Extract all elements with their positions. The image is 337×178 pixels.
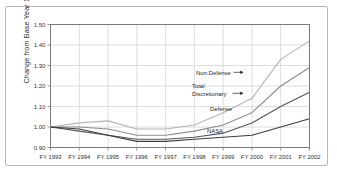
annotation-label: Discretionary <box>192 91 226 97</box>
x-tick-label: FY 1996 <box>126 154 149 160</box>
y-tick-label: 1.00 <box>34 123 46 130</box>
x-tick-label: FY 2001 <box>270 154 292 160</box>
series-line-non-defense <box>51 41 310 129</box>
x-tick-label: FY 1995 <box>97 154 120 160</box>
y-tick-label: 0.90 <box>34 144 46 151</box>
y-tick-label: 1.40 <box>34 41 46 48</box>
x-tick-label: FY 1997 <box>155 154 177 160</box>
series-annotations: Non-DefenseTotalDiscretionaryDefenseNASA <box>192 70 244 135</box>
x-tick-label: FY 1993 <box>39 154 62 160</box>
annotation-label: NASA <box>207 128 223 134</box>
series-line-total-discretionary <box>51 68 310 136</box>
series-line-defense <box>51 92 310 139</box>
annotation-label: Total <box>192 83 204 89</box>
series-lines <box>51 41 310 141</box>
x-tick-label: FY 1998 <box>183 154 206 160</box>
y-tick-labels: 0.901.001.101.201.301.401.50 <box>34 21 46 151</box>
x-tick-label: FY 1994 <box>68 154 91 160</box>
annotation-label: Non-Defense <box>196 70 231 76</box>
x-tick-label: FY 2002 <box>298 154 320 160</box>
chart-figure: Change from Base Year 1993 0.901.001.101… <box>0 0 337 178</box>
annotation-label: Defense <box>210 106 233 112</box>
y-tick-label: 1.30 <box>34 62 46 69</box>
x-tick-label: FY 1999 <box>212 154 234 160</box>
x-tick-labels: FY 1993FY 1994FY 1995FY 1996FY 1997FY 19… <box>39 154 320 160</box>
gridlines <box>48 25 310 151</box>
y-tick-label: 1.20 <box>34 82 46 89</box>
y-tick-label: 1.10 <box>34 103 46 110</box>
x-tick-label: FY 2000 <box>241 154 264 160</box>
chart-svg: 0.901.001.101.201.301.401.50 FY 1993FY 1… <box>0 0 337 178</box>
y-tick-label: 1.50 <box>34 21 46 28</box>
plot-area-container: 0.901.001.101.201.301.401.50 FY 1993FY 1… <box>0 0 337 178</box>
